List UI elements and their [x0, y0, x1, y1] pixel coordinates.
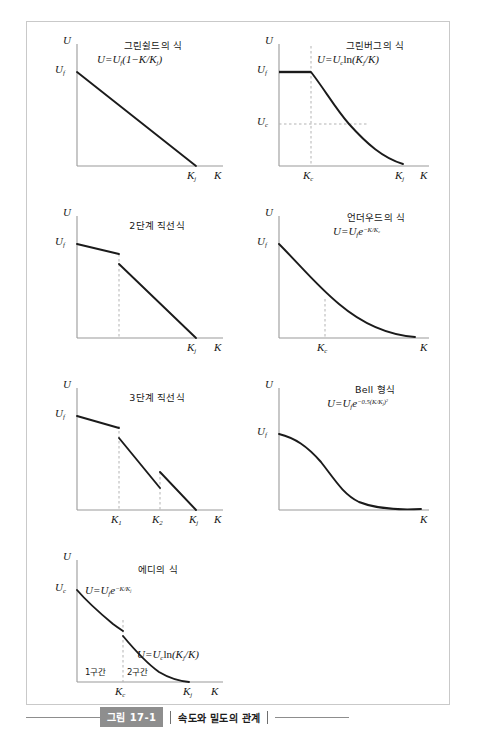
y-tick-uf: Uf	[55, 407, 65, 420]
panel-formula-segment-1: U=Ufe−K/Kj	[85, 584, 131, 597]
greenberg-curve	[311, 72, 403, 164]
x-axis-label: K	[214, 169, 221, 181]
caption-rule-left	[26, 717, 100, 718]
caption-title: 속도와 밀도의 관계	[178, 710, 260, 725]
y-tick-uf: Uf	[257, 63, 267, 76]
segment-2	[119, 264, 196, 338]
panel-title: 언더우드의 식	[321, 210, 431, 224]
x-tick-kj: Kj	[187, 341, 196, 354]
y-tick-uf: Uf	[257, 425, 267, 438]
y-axis-label: U	[265, 206, 273, 218]
chart-panel-three-stage-linear: U Uf K1 K2 Kj K 3단계 직선식	[41, 376, 231, 541]
panel-formula: U=Ufe−0.5(K/Kj)2	[327, 397, 388, 410]
y-tick-uf: Uf	[55, 235, 65, 248]
panel-formula: U=Ufe−K/Kc	[333, 225, 380, 238]
panel-formula-segment-2: U=Ucln(Kj/K)	[137, 648, 199, 661]
panel-title: 3단계 직선식	[97, 390, 217, 404]
x-axis-label: K	[420, 341, 427, 353]
chart-panel-greenberg: U Uf Uc Kc Kj K 그린버그의 식 U=Ucln(Kj/K)	[243, 32, 438, 197]
segment-label-2: 2구간	[127, 665, 148, 677]
chart-panel-two-stage-linear: U Uf Kj K 2단계 직선식	[41, 204, 231, 369]
panel-title: 그린버그의 식	[315, 38, 435, 52]
figure-frame: U Uf Kj K 그린쉴드의 식 U=Uf(1−K/Kj) U Uf Uc K…	[26, 21, 450, 705]
panel-title: 에디의 식	[103, 562, 213, 576]
x-tick-k1: K1	[111, 513, 122, 526]
x-tick-kj: Kj	[189, 513, 198, 526]
segment-3	[160, 472, 196, 510]
x-tick-kj: Kj	[187, 169, 196, 182]
y-axis-label: U	[265, 34, 273, 46]
panel-formula: U=Uf(1−K/Kj)	[97, 53, 162, 66]
segment-1	[77, 416, 119, 428]
y-tick-uc: Uc	[257, 115, 268, 128]
segment-label-1: 1구간	[85, 665, 106, 677]
x-axis-label: K	[214, 341, 221, 353]
chart-panel-underwood: U Uf Kc K 언더우드의 식 U=Ufe−K/Kc	[243, 204, 438, 369]
y-tick-uf: Uf	[257, 235, 267, 248]
y-tick-uf: Uf	[55, 63, 65, 76]
caption-separator-left	[170, 711, 171, 724]
y-axis-label: U	[63, 34, 71, 46]
x-tick-kj: Kj	[395, 169, 404, 182]
y-tick-uc: Uc	[55, 581, 66, 594]
y-axis-label: U	[265, 378, 273, 390]
y-axis-label: U	[63, 206, 71, 218]
x-tick-kc: Kc	[317, 341, 327, 354]
figure-caption: 그림 17-1 속도와 밀도의 관계	[26, 706, 450, 728]
x-axis-label: K	[420, 513, 427, 525]
caption-number: 그림 17-1	[100, 707, 163, 727]
x-tick-kj: Kj	[183, 685, 192, 698]
caption-separator-right	[267, 711, 268, 724]
chart-panel-eddie: U Uc Kc Kj K 에디의 식 U=Ufe−K/Kj U=Ucln(Kj/…	[41, 548, 271, 718]
panel-title: 그린쉴드의 식	[93, 38, 213, 52]
segment-2	[119, 438, 160, 488]
panel-title: 2단계 직선식	[97, 218, 217, 232]
bell-curve	[279, 434, 421, 509]
panel-title: Bell 형식	[325, 382, 425, 396]
underwood-curve	[279, 244, 415, 337]
caption-rule-right	[275, 717, 349, 718]
x-tick-kc: Kc	[115, 685, 125, 698]
x-axis-label: K	[420, 169, 427, 181]
segment-1	[77, 244, 119, 254]
y-axis-label: U	[63, 550, 71, 562]
greenshields-curve	[77, 72, 196, 166]
chart-panel-greenshields: U Uf Kj K 그린쉴드의 식 U=Uf(1−K/Kj)	[41, 32, 231, 197]
x-axis-label: K	[214, 513, 221, 525]
y-axis-label: U	[63, 378, 71, 390]
x-axis-label: K	[211, 685, 218, 697]
panel-formula: U=Ucln(Kj/K)	[317, 53, 379, 66]
x-tick-kc: Kc	[303, 169, 313, 182]
chart-panel-bell: U Uf K Bell 형식 U=Ufe−0.5(K/Kj)2	[243, 376, 438, 541]
x-tick-k2: K2	[152, 513, 163, 526]
